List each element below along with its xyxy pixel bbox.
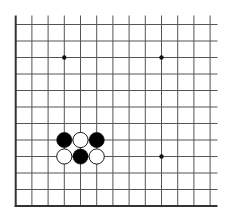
go-board-grid[interactable]	[0, 0, 235, 217]
grid-lines	[16, 16, 218, 207]
white-stone[interactable]	[57, 149, 72, 164]
star-point-icon	[62, 55, 66, 59]
go-board[interactable]	[0, 0, 235, 217]
black-stone[interactable]	[89, 132, 104, 147]
board-edges	[15, 16, 218, 208]
star-point-icon	[159, 55, 163, 59]
star-point-icon	[159, 154, 163, 158]
white-stone[interactable]	[73, 132, 88, 147]
black-stone[interactable]	[57, 132, 72, 147]
white-stone[interactable]	[89, 149, 104, 164]
black-stone[interactable]	[73, 149, 88, 164]
